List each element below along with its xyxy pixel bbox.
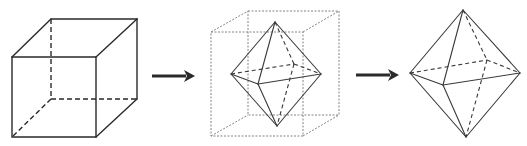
cube-edge [12, 19, 51, 57]
octahedron-hidden-edge [463, 10, 487, 60]
cube-edge [96, 99, 137, 137]
octahedron-edge [463, 10, 520, 73]
cube-to-octahedron-diagram [0, 0, 527, 146]
arrow-right-icon [356, 69, 399, 81]
octahedron-hidden-edge [487, 60, 520, 73]
octahedron-edge [466, 73, 520, 137]
octahedron-hidden-edge [275, 22, 294, 64]
octahedron-hidden-edge [231, 64, 294, 74]
octahedron-edge [443, 85, 466, 137]
cube-hidden-edge [12, 99, 51, 137]
inscribed-octahedron-figure [211, 11, 339, 136]
octahedron-edge [258, 84, 277, 126]
cube-edge [96, 19, 137, 57]
octahedron-figure [410, 10, 520, 137]
cube-figure [12, 19, 137, 137]
cube-front-face [12, 57, 96, 137]
guide-cube [211, 11, 339, 136]
octahedron-edge [443, 73, 520, 85]
arrow-right-icon [152, 70, 195, 82]
octahedron-hidden-edge [466, 60, 487, 137]
